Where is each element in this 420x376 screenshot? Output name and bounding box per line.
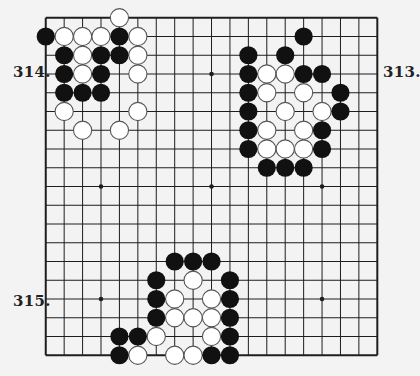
black-stone <box>202 346 220 364</box>
black-stone <box>129 327 147 345</box>
white-stone <box>295 84 313 102</box>
white-stone <box>258 65 276 83</box>
black-stone <box>92 65 110 83</box>
black-stone <box>221 309 239 327</box>
black-stone <box>239 140 257 158</box>
go-problem-page: 314. 313. 315. <box>0 0 420 376</box>
white-stone <box>258 140 276 158</box>
star-point <box>320 297 325 302</box>
white-stone <box>110 9 128 27</box>
white-stone <box>276 65 294 83</box>
white-stone <box>202 290 220 308</box>
black-stone <box>221 290 239 308</box>
white-stone <box>184 271 202 289</box>
black-stone <box>295 159 313 177</box>
black-stone <box>110 327 128 345</box>
white-stone <box>276 140 294 158</box>
black-stone <box>110 27 128 45</box>
black-stone <box>239 46 257 64</box>
white-stone <box>202 309 220 327</box>
white-stone <box>258 121 276 139</box>
black-stone <box>239 84 257 102</box>
black-stone <box>221 271 239 289</box>
black-stone <box>55 46 73 64</box>
white-stone <box>129 27 147 45</box>
black-stone <box>331 84 349 102</box>
black-stone <box>313 121 331 139</box>
white-stone <box>129 102 147 120</box>
white-stone <box>129 346 147 364</box>
black-stone <box>92 84 110 102</box>
white-stone <box>92 27 110 45</box>
black-stone <box>73 84 91 102</box>
white-stone <box>295 121 313 139</box>
black-stone <box>221 327 239 345</box>
black-stone <box>147 271 165 289</box>
black-stone <box>239 65 257 83</box>
black-stone <box>184 252 202 270</box>
black-stone <box>92 46 110 64</box>
black-stone <box>313 140 331 158</box>
problem-label-315: 315. <box>13 292 51 310</box>
white-stone <box>73 27 91 45</box>
star-point <box>99 297 104 302</box>
white-stone <box>166 290 184 308</box>
white-stone <box>110 121 128 139</box>
star-point <box>209 184 214 189</box>
white-stone <box>313 102 331 120</box>
black-stone <box>147 309 165 327</box>
black-stone <box>55 84 73 102</box>
black-stone <box>276 159 294 177</box>
star-point <box>99 184 104 189</box>
white-stone <box>73 46 91 64</box>
star-point <box>320 184 325 189</box>
white-stone <box>166 346 184 364</box>
black-stone <box>202 252 220 270</box>
problem-label-313: 313. <box>383 63 420 81</box>
black-stone <box>331 102 349 120</box>
white-stone <box>129 46 147 64</box>
black-stone <box>37 27 55 45</box>
go-board[interactable] <box>0 0 420 376</box>
problem-label-314: 314. <box>13 63 51 81</box>
white-stone <box>55 27 73 45</box>
black-stone <box>239 121 257 139</box>
white-stone <box>184 309 202 327</box>
white-stone <box>276 102 294 120</box>
white-stone <box>147 327 165 345</box>
black-stone <box>295 65 313 83</box>
black-stone <box>147 290 165 308</box>
black-stone <box>166 252 184 270</box>
black-stone <box>295 27 313 45</box>
black-stone <box>258 159 276 177</box>
white-stone <box>129 65 147 83</box>
black-stone <box>239 102 257 120</box>
white-stone <box>166 309 184 327</box>
white-stone <box>73 121 91 139</box>
black-stone <box>313 65 331 83</box>
black-stone <box>276 46 294 64</box>
black-stone <box>55 65 73 83</box>
white-stone <box>258 84 276 102</box>
white-stone <box>73 65 91 83</box>
star-point <box>209 72 214 77</box>
white-stone <box>202 327 220 345</box>
black-stone <box>110 346 128 364</box>
white-stone <box>55 102 73 120</box>
white-stone <box>295 140 313 158</box>
black-stone <box>221 346 239 364</box>
black-stone <box>110 46 128 64</box>
white-stone <box>184 346 202 364</box>
